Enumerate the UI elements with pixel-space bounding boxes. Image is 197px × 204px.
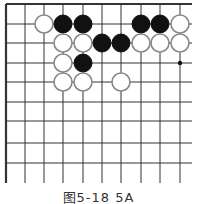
white-stone [171, 34, 189, 52]
white-stone [171, 15, 189, 33]
stones [35, 15, 189, 91]
white-stone [112, 73, 130, 91]
figure-caption: 图5-18 5A [0, 191, 197, 204]
black-stone [112, 34, 130, 52]
black-stone [74, 54, 92, 72]
white-stone [74, 34, 92, 52]
black-stone [132, 15, 150, 33]
white-stone [151, 34, 169, 52]
black-stone [74, 15, 92, 33]
white-stone [35, 15, 53, 33]
go-board [0, 0, 197, 190]
white-stone [74, 73, 92, 91]
white-stone [54, 73, 72, 91]
black-stone [54, 15, 72, 33]
white-stone [54, 54, 72, 72]
white-stone [132, 34, 150, 52]
markers [178, 61, 182, 65]
star-point-marker [178, 61, 182, 65]
white-stone [54, 34, 72, 52]
black-stone [151, 15, 169, 33]
black-stone [93, 34, 111, 52]
